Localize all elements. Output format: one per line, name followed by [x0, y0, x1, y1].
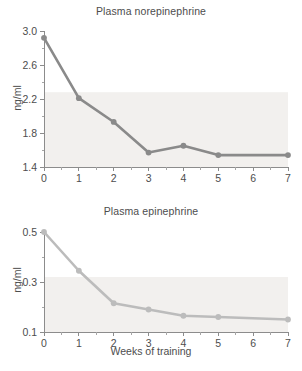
- y-tick-label: 2.2: [22, 93, 37, 105]
- data-point-marker: [41, 35, 47, 41]
- x-tick-label: 1: [76, 172, 82, 184]
- data-point-marker: [76, 268, 82, 274]
- data-point-marker: [76, 95, 82, 101]
- y-tick-label: 3.0: [22, 25, 37, 37]
- chart-panel-norepinephrine: Plasma norepinephrine ng/ml 1.41.82.22.6…: [0, 0, 302, 190]
- plot-epinephrine: 0.10.30.501234567: [0, 190, 302, 371]
- y-axis-label-epinephrine: ng/ml: [11, 257, 23, 303]
- data-point-marker: [285, 317, 291, 323]
- chart-panel-epinephrine: Plasma epinephrine ng/ml 0.10.30.5012345…: [0, 190, 302, 371]
- plot-norepinephrine: 1.41.82.22.63.001234567: [0, 0, 302, 190]
- data-point-marker: [215, 314, 221, 320]
- chart-title-epinephrine: Plasma epinephrine: [0, 205, 302, 217]
- x-tick-label: 2: [111, 172, 117, 184]
- figure: Plasma norepinephrine ng/ml 1.41.82.22.6…: [0, 0, 302, 371]
- data-point-marker: [181, 313, 187, 319]
- plot-background-tint: [44, 277, 288, 332]
- x-tick-label: 3: [146, 172, 152, 184]
- x-tick-label: 4: [181, 172, 187, 184]
- data-point-marker: [41, 229, 47, 235]
- data-point-marker: [285, 152, 291, 158]
- x-tick-label: 7: [285, 172, 291, 184]
- data-point-marker: [111, 300, 117, 306]
- y-axis-label-norepinephrine: ng/ml: [11, 75, 23, 121]
- data-point-marker: [181, 143, 187, 149]
- y-tick-label: 0.1: [22, 326, 37, 338]
- x-tick-label: 5: [215, 172, 221, 184]
- x-axis-label: Weeks of training: [0, 345, 302, 357]
- x-tick-label: 0: [41, 172, 47, 184]
- x-tick-label: 6: [250, 172, 256, 184]
- y-tick-label: 0.5: [22, 226, 37, 238]
- data-point-marker: [146, 150, 152, 156]
- y-tick-label: 1.8: [22, 127, 37, 139]
- y-tick-label: 0.3: [22, 276, 37, 288]
- y-tick-label: 2.6: [22, 59, 37, 71]
- data-point-marker: [215, 152, 221, 158]
- data-point-marker: [146, 307, 152, 313]
- y-tick-label: 1.4: [22, 161, 37, 173]
- chart-title-norepinephrine: Plasma norepinephrine: [0, 5, 302, 17]
- data-point-marker: [111, 119, 117, 125]
